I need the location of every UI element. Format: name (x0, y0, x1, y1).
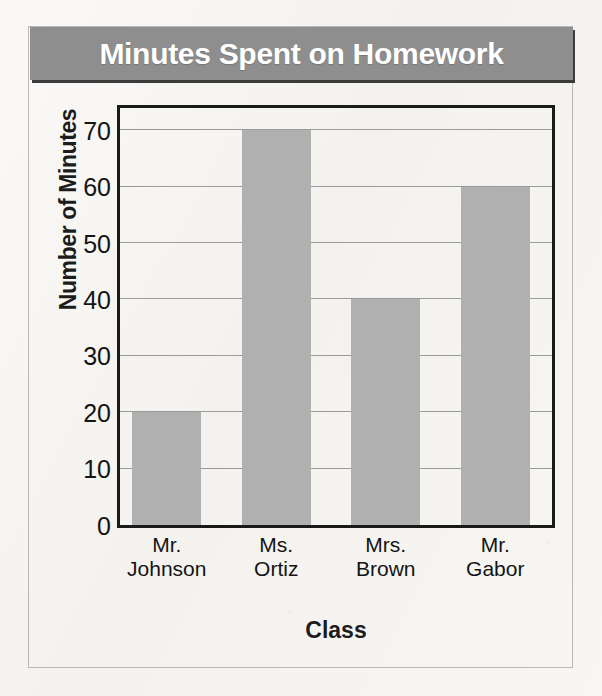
x-tick-label: Mrs.Brown (356, 533, 416, 580)
y-tick-label: 0 (97, 511, 111, 540)
bar (351, 299, 420, 525)
chart-title-banner: Minutes Spent on Homework (30, 27, 573, 80)
x-tick-label-line: Brown (356, 557, 416, 581)
x-tick-label: Ms.Ortiz (254, 533, 298, 580)
chart-title: Minutes Spent on Homework (99, 37, 503, 71)
y-tick-label: 50 (83, 229, 111, 258)
x-tick-label-line: Mrs. (356, 533, 416, 557)
x-tick-label-line: Mr. (466, 533, 524, 557)
y-tick-label: 70 (83, 116, 111, 145)
bar (242, 130, 311, 525)
x-tick-label-line: Gabor (466, 557, 524, 581)
plot-area: 010203040506070 Mr.JohnsonMs.OrtizMrs.Br… (117, 105, 555, 528)
gridline (120, 129, 552, 130)
y-tick-label: 10 (83, 455, 111, 484)
plot-inner: 010203040506070 Mr.JohnsonMs.OrtizMrs.Br… (120, 108, 552, 525)
x-tick-label: Mr.Gabor (466, 533, 524, 580)
y-tick-label: 40 (83, 285, 111, 314)
x-tick-label-line: Ms. (254, 533, 298, 557)
x-tick-label-line: Mr. (127, 533, 206, 557)
bar (461, 187, 530, 525)
x-tick-label-line: Ortiz (254, 557, 298, 581)
x-axis-title: Class (117, 617, 555, 644)
y-tick-label: 20 (83, 398, 111, 427)
y-tick-label: 30 (83, 342, 111, 371)
bar (132, 412, 201, 525)
x-tick-label-line: Johnson (127, 557, 206, 581)
x-tick-label: Mr.Johnson (127, 533, 206, 580)
y-tick-label: 60 (83, 173, 111, 202)
y-axis-title: Number of Minutes (55, 80, 82, 340)
